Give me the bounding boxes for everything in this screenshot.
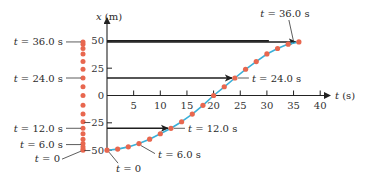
curve-data-point [190,111,195,116]
t-tick-label: 35 [287,100,300,111]
column-dot [81,46,86,51]
curve-data-point [126,144,131,149]
curve-data-point [211,93,216,98]
axes: x (m)t (s)50250−25−50510152025303540 [83,11,355,156]
t-tick-label: 5 [130,100,136,111]
t-axis-label: t (s) [335,90,355,101]
x-tick-label: 50 [91,35,104,46]
column-label-t6: t = 6.0 s [20,139,63,150]
x-tick-label: −50 [83,145,104,156]
column-dot [81,76,86,81]
curve-data-point [158,131,163,136]
annotation-labels: t = 36.0 st = 24.0 st = 12.0 st = 6.0 st… [14,8,310,174]
x-tick-label: 25 [91,63,104,74]
curve-data-point [136,141,141,146]
curve-label-t6: t = 6.0 s [158,149,201,160]
column-label-t0: t = 0 [35,153,60,164]
x-axis-label: x (m) [96,11,122,22]
curve-data-point [275,46,280,51]
curve-data-point [243,67,248,72]
position-time-diagram: x (m)t (s)50250−25−50510152025303540 t =… [0,0,367,179]
curve-label-t12: t = 12.0 s [188,123,237,134]
t-tick-label: 25 [234,100,247,111]
column-dot [81,131,86,136]
curve-leader [109,152,118,163]
column-label-t24: t = 24.0 s [14,73,63,84]
curve-data-point [254,59,259,64]
curve-data-point [168,126,173,131]
curve-data-point [264,51,269,56]
t-tick-label: 20 [207,100,220,111]
curve-data-point [286,42,291,47]
column-dot [81,39,86,44]
column-dot [81,93,86,98]
column-leader [62,151,81,159]
t-tick-label: 10 [154,100,167,111]
curve-leader [141,146,155,154]
curve-data-point [232,75,237,80]
curve-data-point [147,137,152,142]
curve-label-t0: t = 0 [116,163,141,174]
column-dot [81,84,86,89]
motion-diagram-column [81,39,86,152]
column-dot [81,67,86,72]
curve-data-point [179,119,184,124]
x-tick-label: −25 [83,117,104,128]
column-dot [81,112,86,117]
curve-data-point [200,103,205,108]
curve-data-point [115,146,120,151]
curve-label-t24: t = 24.0 s [252,73,301,84]
t-tick-label: 15 [181,100,194,111]
curve-label-t36: t = 36.0 s [260,8,309,19]
column-dot [81,137,86,142]
column-dot [81,51,86,56]
column-label-t36: t = 36.0 s [14,36,63,47]
curve-data-point [104,148,109,153]
curve-data-point [222,84,227,89]
curve-leader [289,20,294,43]
column-label-t12: t = 12.0 s [14,123,63,134]
t-tick-label: 40 [314,100,327,111]
x-tick-label: 0 [98,90,104,101]
column-dot [81,103,86,108]
curve-data-point [296,39,301,44]
t-tick-label: 30 [261,100,274,111]
column-dot [81,59,86,64]
